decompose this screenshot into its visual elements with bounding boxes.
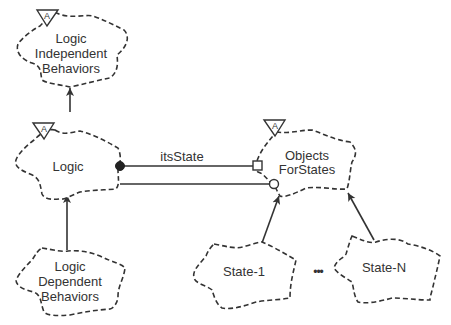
edge-state1-to-objects — [262, 196, 279, 243]
node-label-line: Logic — [52, 159, 84, 174]
svg-text:A: A — [41, 124, 47, 134]
class-category-logic[interactable]: A Logic — [16, 123, 121, 199]
node-label-line: Logic — [55, 31, 87, 46]
node-label-line: Dependent — [38, 274, 102, 289]
ellipsis-more-states: ••• — [313, 265, 323, 279]
node-label-line: Behaviors — [42, 61, 100, 76]
class-category-logic-independent-behaviors[interactable]: A Logic Independent Behaviors — [17, 10, 127, 87]
node-label-line: Objects — [285, 148, 330, 163]
node-label-line: State-N — [362, 260, 406, 275]
square-adornment-icon — [253, 161, 262, 170]
class-category-state-n[interactable]: State-N — [334, 236, 440, 303]
edge-staten-to-objects — [348, 193, 374, 240]
node-label-line: State-1 — [223, 264, 265, 279]
class-category-state-1[interactable]: State-1 — [194, 242, 296, 309]
node-label-line: Independent — [35, 46, 108, 61]
diagram-canvas: A Logic Independent Behaviors A Logic Lo… — [0, 0, 451, 325]
node-label-line: ForStates — [279, 162, 336, 177]
svg-text:A: A — [272, 121, 278, 131]
node-label-line: Behaviors — [41, 289, 99, 304]
node-label-line: Logic — [54, 259, 86, 274]
svg-text:A: A — [44, 11, 50, 21]
filled-circle-adornment-icon — [116, 162, 125, 171]
association-label-itsstate: itsState — [160, 149, 203, 164]
open-circle-adornment-icon — [270, 180, 279, 189]
class-category-logic-dependent-behaviors[interactable]: Logic Dependent Behaviors — [16, 248, 125, 316]
